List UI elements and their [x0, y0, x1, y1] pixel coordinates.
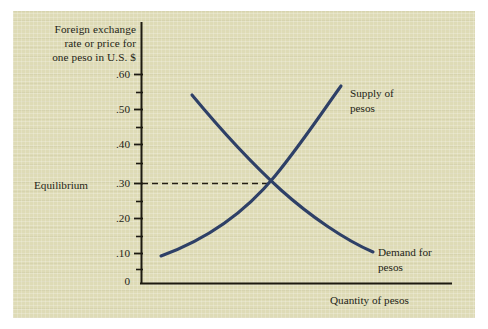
- y-tick-label-030: .30: [96, 177, 130, 189]
- demand-curve-label: Demand for pesos: [378, 245, 432, 275]
- x-axis-title: Quantity of pesos: [330, 293, 409, 307]
- y-tick-label-060: .60: [96, 68, 130, 80]
- y-tick-label-020: .20: [96, 212, 130, 224]
- figure-container: Foreign exchange rate or price for one p…: [0, 0, 488, 329]
- y-axis-title: Foreign exchange rate or price for one p…: [18, 22, 136, 64]
- equilibrium-label: Equilibrium: [34, 178, 88, 192]
- y-tick-label-050: .50: [96, 103, 130, 115]
- y-tick-label-010: .10: [96, 247, 130, 259]
- supply-curve-label: Supply of pesos: [350, 86, 394, 116]
- y-tick-label-0: 0: [96, 275, 130, 287]
- y-tick-label-040: .40: [96, 138, 130, 150]
